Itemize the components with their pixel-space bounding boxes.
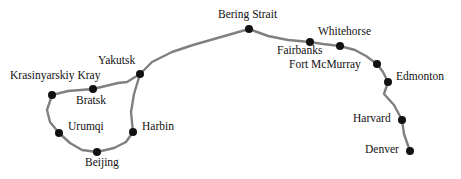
- city-label-edmonton: Edmonton: [396, 71, 444, 83]
- route-map-figure: Krasinyarskiy KrayBratskYakutskUrumqiHar…: [0, 0, 461, 179]
- city-label-krasinyarskiy-kray: Krasinyarskiy Kray: [10, 70, 100, 82]
- city-label-urumqi: Urumqi: [68, 121, 104, 133]
- city-label-denver: Denver: [365, 144, 399, 156]
- route-segment-urumqi-beijing: [59, 133, 97, 152]
- route-segment-bering-strait-fairbanks: [249, 29, 310, 42]
- route-segment-yakutsk-bering-strait: [140, 29, 249, 74]
- route-segment-harbin-yakutsk: [131, 74, 140, 132]
- city-label-harvard: Harvard: [353, 113, 391, 125]
- city-label-bratsk: Bratsk: [76, 95, 106, 107]
- city-label-beijing: Beijing: [85, 157, 119, 169]
- city-label-fairbanks: Fairbanks: [277, 45, 322, 57]
- route-segment-krasinyarskiy-urumqi: [47, 95, 59, 133]
- city-label-fort-mcmurray: Fort McMurray: [289, 59, 361, 71]
- city-label-yakutsk: Yakutsk: [98, 55, 135, 67]
- city-label-whitehorse: Whitehorse: [318, 26, 371, 38]
- city-label-harbin: Harbin: [142, 121, 174, 133]
- city-label-bering-strait: Bering Strait: [218, 9, 277, 21]
- route-segment-beijing-harbin: [97, 132, 133, 152]
